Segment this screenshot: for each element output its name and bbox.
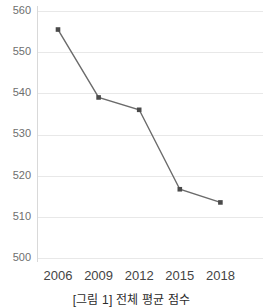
x-tick-label-2012: 2012 xyxy=(125,268,154,283)
x-tick-label-2015: 2015 xyxy=(165,268,194,283)
y-tick-label-540: 540 xyxy=(13,86,31,98)
data-point-2018 xyxy=(218,200,223,205)
figure-container: 500510520530540550560 200620092012201520… xyxy=(0,0,263,307)
data-series xyxy=(56,27,223,205)
data-point-2009 xyxy=(96,95,101,100)
y-tick-label-510: 510 xyxy=(13,210,31,222)
y-tick-label-560: 560 xyxy=(13,4,31,16)
y-axis-tick-labels: 500510520530540550560 xyxy=(13,4,31,263)
y-tick-label-550: 550 xyxy=(13,45,31,57)
y-tick-label-520: 520 xyxy=(13,169,31,181)
gridlines xyxy=(38,12,263,259)
data-point-2006 xyxy=(56,27,61,32)
data-point-2012 xyxy=(137,108,142,113)
x-tick-label-2018: 2018 xyxy=(206,268,235,283)
data-point-2015 xyxy=(178,187,183,192)
line-chart: 500510520530540550560 200620092012201520… xyxy=(0,0,263,307)
y-tick-label-500: 500 xyxy=(13,251,31,263)
figure-caption: [그림 1] 전체 평균 점수 xyxy=(0,293,263,307)
y-tick-label-530: 530 xyxy=(13,127,31,139)
x-tick-label-2009: 2009 xyxy=(84,268,113,283)
x-tick-label-2006: 2006 xyxy=(44,268,73,283)
x-axis-tick-labels: 20062009201220152018 xyxy=(44,268,235,283)
